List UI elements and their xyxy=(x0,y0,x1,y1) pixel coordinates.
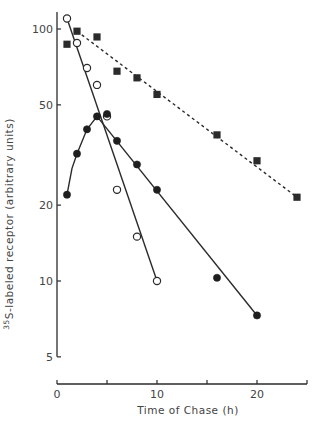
y-axis-title: 35S-labeled receptor (arbitrary units) xyxy=(2,118,15,330)
x-axis-title: Time of Chase (h) xyxy=(136,404,239,416)
y-tick-label: 20 xyxy=(39,199,53,212)
open-circle-marker xyxy=(93,81,100,88)
x-axis: 01020 xyxy=(54,380,308,401)
y-axis: 5102050100 xyxy=(32,12,61,364)
filled-circle-marker xyxy=(63,191,70,198)
y-tick-label: 10 xyxy=(39,275,53,288)
open-circle-marker xyxy=(113,186,120,193)
filled-circle-marker xyxy=(83,126,90,133)
open-circle-marker xyxy=(73,39,80,46)
filled-square-marker xyxy=(253,157,260,164)
chart: 5102050100 01020 Time of Chase (h) 35S-l… xyxy=(0,0,314,424)
y-tick-label: 5 xyxy=(46,351,53,364)
open-circle-marker xyxy=(133,233,140,240)
filled-circle-marker xyxy=(153,186,160,193)
open-circle-marker xyxy=(153,277,160,284)
filled-square-marker xyxy=(213,131,220,138)
y-axis-title-main: S-labeled receptor (arbitrary units) xyxy=(3,118,15,319)
filled-square-marker xyxy=(63,41,70,48)
y-tick-label: 100 xyxy=(32,23,53,36)
filled-square-marker xyxy=(93,33,100,40)
data-markers xyxy=(63,15,300,319)
y-tick-label: 50 xyxy=(39,99,53,112)
fit-lines xyxy=(67,19,297,316)
filled-circle-marker xyxy=(253,312,260,319)
open-circle-marker xyxy=(63,15,70,22)
filled-circle-marker xyxy=(213,274,220,281)
filled-square-marker xyxy=(153,91,160,98)
x-tick-label: 10 xyxy=(150,388,164,401)
filled-circle-marker xyxy=(113,137,120,144)
x-tick-label: 20 xyxy=(250,388,264,401)
y-axis-title-superscript: 35 xyxy=(2,319,11,330)
filled-circle-marker xyxy=(73,150,80,157)
filled-square-marker xyxy=(113,68,120,75)
filled-circle-marker xyxy=(133,161,140,168)
filled-circle-marker xyxy=(103,110,110,117)
open-circle-marker xyxy=(83,64,90,71)
filled-circle-marker xyxy=(93,113,100,120)
filled-square-marker xyxy=(293,194,300,201)
fit-line xyxy=(97,116,257,315)
filled-square-marker xyxy=(73,28,80,35)
filled-square-marker xyxy=(133,74,140,81)
fit-curve xyxy=(67,116,97,194)
x-tick-label: 0 xyxy=(54,388,61,401)
